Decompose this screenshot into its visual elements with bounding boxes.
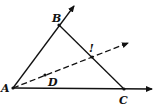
label-a: A — [0, 82, 10, 95]
point-d — [43, 73, 46, 76]
ray-ac — [13, 88, 152, 89]
point-a — [11, 86, 14, 89]
label-d: D — [47, 76, 58, 89]
point-intersection — [90, 55, 93, 58]
label-c: C — [119, 94, 128, 107]
label-intersection: ! — [89, 42, 94, 55]
point-c — [122, 87, 125, 90]
geometry-diagram: A B C D ! — [0, 0, 157, 108]
label-b: B — [51, 12, 61, 25]
